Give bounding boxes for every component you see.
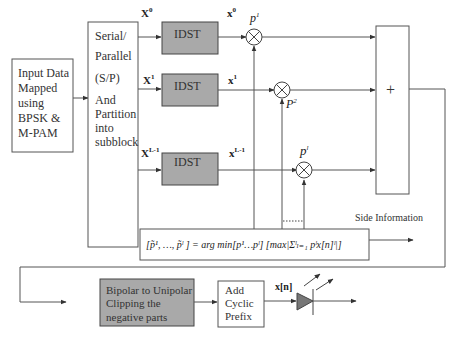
cp-line: Prefix (225, 310, 252, 322)
led-icon (297, 274, 356, 315)
idst-label: IDST (174, 79, 201, 93)
multiplier-icon (296, 162, 312, 178)
phase-label: pl (299, 143, 309, 158)
sp-line: Parallel (95, 49, 132, 63)
serial-parallel-block: Serial/ Parallel (S/P) And Partition int… (88, 22, 138, 247)
phase-label: p1 (249, 11, 260, 25)
output-label: x1 (228, 73, 238, 86)
idst-label: IDST (174, 155, 201, 169)
plus-icon: + (386, 81, 395, 98)
phase-label: P2 (285, 97, 297, 111)
branch-1: X1 IDST x1 P2 (138, 73, 375, 229)
input-label: X1 (143, 73, 155, 86)
branch-l-1: XL-1 IDST xL-1 pl (138, 143, 375, 229)
input-line: M-PAM (18, 126, 58, 140)
cyclic-prefix-block: Add Cyclic Prefix (218, 281, 264, 327)
sp-line: And (95, 93, 116, 107)
output-label: x0 (227, 6, 237, 19)
sp-line: subblock (95, 135, 138, 149)
sp-line: Serial/ (95, 29, 127, 43)
cp-line: Cyclic (225, 297, 254, 309)
sp-line: Partition (95, 107, 136, 121)
input-data-block: Input Data Mapped using BPSK & M-PAM (12, 59, 73, 152)
signal-label: x[n] (275, 281, 292, 292)
idst-label: IDST (174, 27, 201, 41)
clipping-line: Bipolar to Unipolar (106, 284, 192, 296)
sp-line: into (95, 121, 114, 135)
optimization-formula: [p̃¹, …, p̃ˡ ] = arg min[p¹…pˡ] [max|Σˡₗ… (146, 239, 342, 250)
clipping-line: negative parts (106, 311, 167, 323)
block-diagram: Input Data Mapped using BPSK & M-PAM Ser… (0, 0, 458, 340)
sp-line: (S/P) (95, 71, 120, 85)
input-line: Input Data (18, 66, 70, 80)
clipping-block: Bipolar to Unipolar Clipping the negativ… (100, 279, 194, 326)
input-line: Mapped (18, 81, 57, 95)
multiplier-icon (274, 82, 290, 98)
optimization-box: [p̃¹, …, p̃ˡ ] = arg min[p¹…pˡ] [max|Σˡₗ… (140, 229, 369, 260)
branch-0: X0 IDST x0 p1 (138, 6, 375, 229)
side-information-label: Side Information (355, 212, 423, 223)
multiplier-icon (246, 29, 262, 45)
input-label: XL-1 (141, 146, 160, 159)
cp-line: Add (225, 284, 244, 296)
input-line: BPSK & (18, 111, 61, 125)
input-line: using (18, 96, 44, 110)
output-label: xL-1 (229, 146, 246, 159)
clipping-line: Clipping the (106, 297, 161, 309)
summer-block: + (376, 26, 409, 194)
input-label: X0 (141, 6, 153, 19)
